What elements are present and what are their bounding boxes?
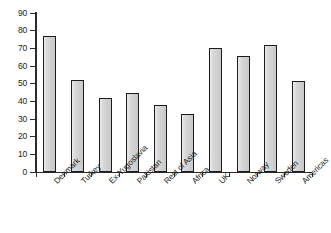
y-axis-tick	[30, 83, 35, 84]
x-axis-tick	[36, 173, 37, 177]
y-axis-tick-label: 0	[22, 168, 27, 177]
y-axis-tick	[30, 30, 35, 31]
y-axis-tick-label: 60	[18, 62, 27, 71]
y-axis-tick	[30, 136, 35, 137]
y-axis-tick	[30, 172, 35, 173]
bar	[43, 36, 56, 172]
y-axis-tick-label: 50	[18, 79, 27, 88]
y-axis-tick-label: 80	[18, 26, 27, 35]
y-axis-tick-label: 10	[18, 150, 27, 159]
bar	[209, 48, 222, 172]
y-axis-tick	[30, 13, 35, 14]
bar	[264, 45, 277, 172]
y-axis-tick-label: 30	[18, 115, 27, 124]
plot-area	[36, 13, 312, 172]
bar	[99, 98, 112, 172]
bar	[237, 56, 250, 172]
y-axis-tick	[30, 101, 35, 102]
y-axis-tick	[30, 119, 35, 120]
y-axis-tick	[30, 66, 35, 67]
y-axis-tick-label: 20	[18, 132, 27, 141]
y-axis-tick-label: 70	[18, 44, 27, 53]
y-axis-tick-label: 40	[18, 97, 27, 106]
y-axis-tick	[30, 154, 35, 155]
y-axis-tick	[30, 48, 35, 49]
y-axis-tick-label: 90	[18, 9, 27, 18]
